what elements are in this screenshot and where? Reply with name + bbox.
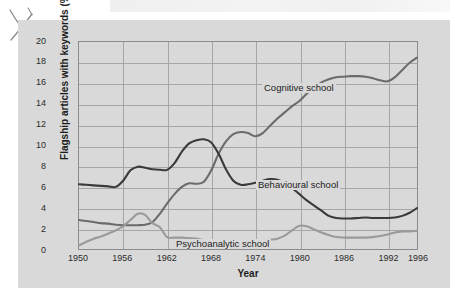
series-line-1 bbox=[79, 139, 417, 218]
annotation-cognitive-school: Cognitive school bbox=[262, 83, 336, 93]
y-tick-label: 16 bbox=[20, 78, 46, 87]
y-axis-label: Flagship articles with keywords (%) bbox=[59, 0, 70, 166]
annotation-psychoanalytic-school: Psychoanalytic school bbox=[174, 239, 271, 249]
x-tick-label: 1974 bbox=[235, 254, 275, 263]
x-tick-label: 1956 bbox=[102, 254, 142, 263]
x-axis-label: Year bbox=[78, 268, 418, 279]
x-tick-label: 1980 bbox=[280, 254, 320, 263]
y-tick-label: 20 bbox=[20, 37, 46, 46]
annotation-behavioural-school: Behavioural school bbox=[256, 180, 340, 190]
x-tick-label: 1968 bbox=[191, 254, 231, 263]
y-tick-label: 0 bbox=[20, 246, 46, 255]
y-tick-label: 10 bbox=[20, 141, 46, 150]
scanned-page: Flagship articles with keywords (%) Year… bbox=[0, 0, 455, 299]
y-tick-label: 12 bbox=[20, 120, 46, 129]
y-tick-label: 4 bbox=[20, 204, 46, 213]
y-tick-label: 14 bbox=[20, 99, 46, 108]
series-line-0 bbox=[79, 58, 417, 226]
y-tick-label: 8 bbox=[20, 162, 46, 171]
chart-figure-panel: Flagship articles with keywords (%) Year… bbox=[18, 20, 450, 288]
y-tick-label: 18 bbox=[20, 57, 46, 66]
y-tick-label: 2 bbox=[20, 225, 46, 234]
series-lines bbox=[79, 42, 417, 249]
y-tick-label: 6 bbox=[20, 183, 46, 192]
scan-artifact bbox=[110, 0, 450, 12]
x-tick-label: 1996 bbox=[398, 254, 438, 263]
x-tick-label: 1950 bbox=[58, 254, 98, 263]
plot-area bbox=[78, 41, 418, 250]
x-tick-label: 1962 bbox=[147, 254, 187, 263]
x-tick-label: 1986 bbox=[324, 254, 364, 263]
